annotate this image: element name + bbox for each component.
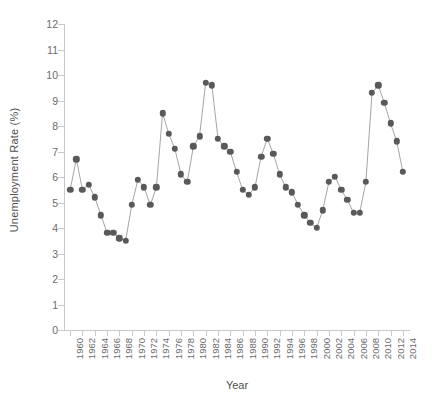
x-tick-label: 2008 — [370, 338, 381, 359]
x-tick-mark — [193, 331, 194, 336]
x-tick-label: 1968 — [123, 338, 134, 359]
y-tick-label: 9 — [28, 95, 58, 107]
x-tick-mark — [95, 331, 96, 336]
y-tick-label: 6 — [28, 171, 58, 183]
x-tick-label: 1974 — [160, 338, 171, 359]
x-tick-label: 1962 — [86, 338, 97, 359]
y-tick-label: 4 — [28, 222, 58, 234]
x-tick-mark — [280, 331, 281, 336]
x-axis-title: Year — [64, 379, 410, 391]
x-tick-mark — [317, 331, 318, 336]
x-tick-label: 1998 — [308, 338, 319, 359]
y-tick-label: 0 — [28, 324, 58, 336]
x-tick-label: 1960 — [74, 338, 85, 359]
x-tick-mark — [181, 331, 182, 336]
y-tick-label: 12 — [28, 18, 58, 30]
x-tick-mark — [218, 331, 219, 336]
x-tick-mark — [292, 331, 293, 336]
y-tick-label: 2 — [28, 273, 58, 285]
x-tick-label: 2014 — [407, 338, 418, 359]
x-tick-label: 1986 — [234, 338, 245, 359]
x-tick-mark — [132, 331, 133, 336]
x-axis-ticks — [64, 331, 410, 337]
y-tick-label: 3 — [28, 248, 58, 260]
x-tick-mark — [119, 331, 120, 336]
y-tick-label: 1 — [28, 299, 58, 311]
x-tick-label: 1964 — [99, 338, 110, 359]
x-axis-tick-labels: 1960196219641966196819701972197419761978… — [64, 338, 410, 378]
x-tick-label: 1990 — [259, 338, 270, 359]
x-tick-mark — [206, 331, 207, 336]
y-axis-tick-labels: 0123456789101112 — [26, 24, 58, 330]
x-tick-label: 1992 — [271, 338, 282, 359]
x-tick-mark — [156, 331, 157, 336]
x-tick-label: 2010 — [382, 338, 393, 359]
y-tick-label: 5 — [28, 197, 58, 209]
x-tick-label: 1970 — [136, 338, 147, 359]
x-tick-mark — [243, 331, 244, 336]
x-tick-label: 1988 — [247, 338, 258, 359]
x-tick-mark — [329, 331, 330, 336]
x-tick-mark — [255, 331, 256, 336]
unemployment-rate-line-chart: Unemployment Rate (%) 0123456789101112 1… — [0, 0, 433, 403]
x-tick-label: 2012 — [395, 338, 406, 359]
x-tick-mark — [403, 331, 404, 336]
x-tick-mark — [267, 331, 268, 336]
x-tick-mark — [169, 331, 170, 336]
x-tick-mark — [82, 331, 83, 336]
x-tick-mark — [304, 331, 305, 336]
y-tick-label: 8 — [28, 120, 58, 132]
x-tick-label: 1980 — [197, 338, 208, 359]
x-tick-mark — [366, 331, 367, 336]
x-tick-label: 2004 — [345, 338, 356, 359]
x-tick-mark — [107, 331, 108, 336]
y-tick-label: 11 — [28, 44, 58, 56]
y-tick-label: 7 — [28, 146, 58, 158]
x-tick-mark — [391, 331, 392, 336]
x-tick-label: 2006 — [358, 338, 369, 359]
y-tick-label: 10 — [28, 69, 58, 81]
y-axis-title-text: Unemployment Rate (%) — [8, 108, 20, 233]
plot-area — [64, 24, 409, 330]
x-tick-label: 1978 — [185, 338, 196, 359]
series-line-path — [64, 24, 409, 330]
x-tick-mark — [70, 331, 71, 336]
x-tick-label: 1996 — [296, 338, 307, 359]
x-tick-label: 1972 — [148, 338, 159, 359]
x-tick-label: 1994 — [284, 338, 295, 359]
x-tick-mark — [354, 331, 355, 336]
x-tick-mark — [144, 331, 145, 336]
x-tick-label: 1976 — [173, 338, 184, 359]
x-tick-label: 1966 — [111, 338, 122, 359]
x-tick-mark — [230, 331, 231, 336]
x-tick-label: 1982 — [210, 338, 221, 359]
x-tick-label: 1984 — [222, 338, 233, 359]
y-axis-title: Unemployment Rate (%) — [2, 0, 26, 340]
x-tick-label: 2000 — [321, 338, 332, 359]
x-tick-mark — [341, 331, 342, 336]
x-tick-label: 2002 — [333, 338, 344, 359]
x-tick-mark — [378, 331, 379, 336]
